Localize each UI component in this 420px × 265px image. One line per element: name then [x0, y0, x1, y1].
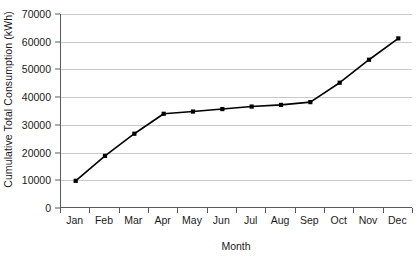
y-axis-tick-label: 50000 — [22, 63, 51, 75]
data-point-marker — [74, 179, 78, 183]
y-axis-ticks: 010000200003000040000500006000070000 — [0, 14, 60, 208]
x-axis-tick-mark — [353, 208, 354, 213]
x-axis-tick-label: Jun — [213, 214, 230, 226]
data-point-marker — [103, 154, 107, 158]
x-axis-tick-mark — [207, 208, 208, 213]
x-axis-tick-mark — [412, 208, 413, 213]
x-axis-tick-mark — [265, 208, 266, 213]
x-axis-tick-label: Aug — [271, 214, 290, 226]
plot-area — [60, 14, 412, 208]
data-point-marker — [308, 100, 312, 104]
y-axis-tick-label: 40000 — [22, 91, 51, 103]
x-axis-tick-mark — [148, 208, 149, 213]
x-axis-tick-mark — [177, 208, 178, 213]
x-axis-title: Month — [60, 240, 412, 252]
x-axis-tick-mark — [119, 208, 120, 213]
x-axis-tick-label: Apr — [154, 214, 170, 226]
data-point-marker — [367, 58, 371, 62]
x-axis-tick-mark — [89, 208, 90, 213]
data-point-marker — [132, 132, 136, 136]
x-axis-tick-label: Dec — [388, 214, 407, 226]
y-axis-tick-label: 70000 — [22, 8, 51, 20]
series-polyline — [76, 38, 399, 180]
line-chart: Cumulative Total Consumption (kWh) 01000… — [0, 0, 420, 265]
x-axis-ticks: JanFebMarAprMayJunJulAugSepOctNovDec — [60, 208, 412, 228]
data-point-marker — [162, 112, 166, 116]
data-point-marker — [279, 103, 283, 107]
x-axis-tick-label: May — [182, 214, 202, 226]
data-point-marker — [396, 36, 400, 40]
series-markers — [74, 36, 401, 183]
x-axis-tick-mark — [60, 208, 61, 213]
data-point-marker — [338, 81, 342, 85]
y-axis-tick-label: 10000 — [22, 174, 51, 186]
x-axis-tick-mark — [236, 208, 237, 213]
x-axis-tick-label: Jan — [66, 214, 83, 226]
x-axis-tick-label: Jul — [244, 214, 257, 226]
data-series-line — [61, 14, 413, 208]
x-axis-tick-label: Feb — [95, 214, 113, 226]
data-point-marker — [250, 104, 254, 108]
y-axis-tick-label: 60000 — [22, 36, 51, 48]
x-axis-tick-mark — [324, 208, 325, 213]
x-axis-tick-label: Oct — [330, 214, 346, 226]
y-axis-tick-label: 0 — [45, 202, 51, 214]
x-axis-tick-label: Sep — [300, 214, 319, 226]
data-point-marker — [191, 109, 195, 113]
x-axis-tick-label: Mar — [124, 214, 142, 226]
data-point-marker — [220, 107, 224, 111]
x-axis-tick-label: Nov — [359, 214, 378, 226]
x-axis-tick-mark — [383, 208, 384, 213]
y-axis-tick-label: 30000 — [22, 119, 51, 131]
y-axis-tick-label: 20000 — [22, 147, 51, 159]
x-axis-tick-mark — [295, 208, 296, 213]
